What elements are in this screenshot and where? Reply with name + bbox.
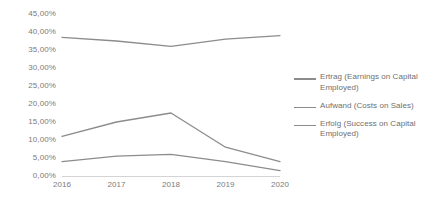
y-tick-label: 15,00%	[0, 118, 56, 126]
legend-line-icon	[294, 104, 316, 112]
series-line	[62, 154, 280, 170]
y-tick-label: 5,00%	[0, 154, 56, 162]
y-axis: 45,00%40,00%35,00%30,00%25,00%20,00%15,0…	[0, 0, 56, 205]
x-axis-line	[62, 176, 280, 177]
series-line	[62, 36, 280, 47]
chart-legend: Ertrag (Earnings on Capital Employed)Auf…	[294, 72, 432, 147]
legend-line-icon	[294, 75, 316, 83]
x-axis: 20162017201820192020	[62, 181, 280, 197]
x-tick-label: 2017	[97, 181, 137, 189]
legend-item[interactable]: Ertrag (Earnings on Capital Employed)	[294, 72, 432, 94]
x-tick-label: 2018	[151, 181, 191, 189]
y-tick-label: 30,00%	[0, 64, 56, 72]
y-tick-label: 40,00%	[0, 28, 56, 36]
legend-item[interactable]: Erfolg (Success on Capital Employed)	[294, 119, 432, 141]
legend-line-icon	[294, 122, 316, 130]
legend-item[interactable]: Aufwand (Costs on Sales)	[294, 101, 432, 112]
y-tick-label: 20,00%	[0, 100, 56, 108]
legend-label: Aufwand (Costs on Sales)	[320, 101, 414, 112]
x-tick-label: 2019	[206, 181, 246, 189]
plot-area	[62, 14, 280, 176]
x-tick-label: 2016	[42, 181, 82, 189]
legend-label: Ertrag (Earnings on Capital Employed)	[320, 72, 432, 94]
y-tick-label: 25,00%	[0, 82, 56, 90]
plot-svg	[62, 14, 280, 176]
y-tick-label: 35,00%	[0, 46, 56, 54]
y-tick-label: 10,00%	[0, 136, 56, 144]
x-tick-label: 2020	[260, 181, 300, 189]
y-tick-label: 0,00%	[0, 172, 56, 180]
line-chart: 45,00%40,00%35,00%30,00%25,00%20,00%15,0…	[0, 0, 434, 205]
legend-label: Erfolg (Success on Capital Employed)	[320, 119, 432, 141]
y-tick-label: 45,00%	[0, 10, 56, 18]
